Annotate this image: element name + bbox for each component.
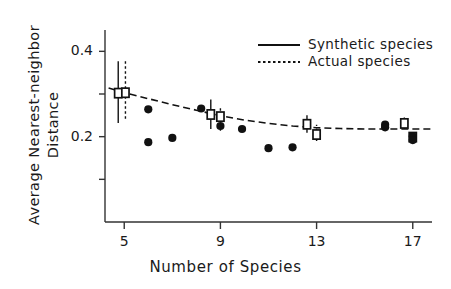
x-axis-title: Number of Species bbox=[0, 258, 451, 276]
legend-label-dotted: Actual species bbox=[308, 53, 411, 69]
data-point-circle bbox=[144, 138, 152, 146]
data-point-circle bbox=[144, 105, 152, 113]
data-point-circle bbox=[197, 104, 205, 112]
data-point-circle bbox=[288, 143, 296, 151]
data-point-circle bbox=[409, 136, 417, 144]
x-tick-label-5: 5 bbox=[94, 233, 154, 249]
data-point-square bbox=[207, 110, 214, 119]
y-tick-label-0.2: 0.2 bbox=[0, 128, 93, 144]
data-point-square bbox=[122, 88, 129, 97]
data-point-circle bbox=[216, 122, 224, 130]
x-tick-label-9: 9 bbox=[190, 233, 250, 249]
data-point-circle bbox=[168, 134, 176, 142]
data-point-square bbox=[217, 112, 224, 121]
data-point-square bbox=[303, 120, 310, 129]
data-point-square bbox=[313, 130, 320, 139]
data-point-circle bbox=[238, 125, 246, 133]
x-tick-label-17: 17 bbox=[383, 233, 443, 249]
chart-figure: Average Nearest-neighbor Distance Number… bbox=[0, 0, 451, 289]
data-point-circle bbox=[381, 123, 389, 131]
data-point-circle bbox=[264, 144, 272, 152]
data-point-square bbox=[401, 119, 408, 128]
x-tick-label-13: 13 bbox=[287, 233, 347, 249]
legend-label-solid: Synthetic species bbox=[308, 36, 433, 52]
y-tick-label-0.4: 0.4 bbox=[0, 42, 93, 58]
data-point-square bbox=[115, 89, 122, 98]
